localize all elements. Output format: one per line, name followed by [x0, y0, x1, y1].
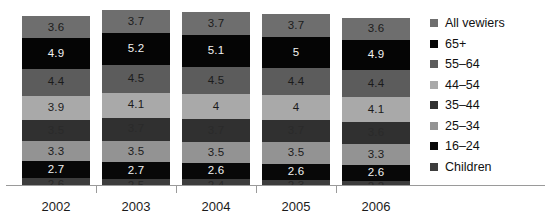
bar-value-label: 4.4 [368, 78, 385, 90]
bar-segment[interactable]: 5.1 [182, 35, 250, 66]
legend-item[interactable]: 16–24 [430, 136, 548, 157]
bar-segment[interactable]: 3.7 [262, 14, 330, 37]
bar-segment[interactable]: 4.4 [342, 70, 410, 97]
bar-value-label: 4.1 [368, 104, 385, 116]
bar-value-label: 3.7 [288, 20, 305, 32]
bar-value-label: 3.9 [48, 102, 65, 114]
bar-value-label: 2.7 [48, 164, 65, 176]
bar-value-label: 5.1 [208, 45, 225, 57]
bar-segment[interactable]: 4 [262, 95, 330, 120]
legend-label: All vewiers [445, 16, 505, 30]
bar-value-label: 4.4 [48, 76, 65, 88]
bar-value-label: 3.5 [128, 146, 145, 158]
bar-segment[interactable]: 4 [182, 94, 250, 119]
legend-label: 25–34 [445, 119, 480, 133]
bar-column-2006[interactable]: 3.64.94.44.13.63.32.62.2 [342, 18, 410, 186]
bar-segment[interactable]: 3.6 [342, 122, 410, 144]
bar-segment[interactable]: 3.5 [262, 142, 330, 164]
bar-column-2003[interactable]: 3.75.24.54.13.73.52.72.5 [102, 10, 170, 186]
x-axis-tick [96, 186, 97, 193]
bar-segment[interactable]: 3.7 [182, 119, 250, 142]
bar-segment[interactable]: 3.9 [22, 96, 90, 120]
bar-value-label: 5 [293, 47, 300, 59]
bar-column-2005[interactable]: 3.754.443.73.52.62.3 [262, 14, 330, 186]
bar-column-2004[interactable]: 3.75.14.543.73.52.62.4 [182, 12, 250, 186]
bar-segment[interactable]: 2.6 [182, 163, 250, 179]
bar-value-label: 4.5 [128, 73, 145, 85]
legend-swatch-icon [430, 101, 438, 109]
bar-value-label: 2.6 [208, 165, 225, 177]
bar-value-label: 3.6 [368, 23, 385, 35]
legend-swatch-icon [430, 81, 438, 89]
bar-value-label: 3.7 [288, 125, 305, 137]
bar-value-label: 3.5 [288, 147, 305, 159]
bar-segment[interactable]: 3.5 [182, 142, 250, 164]
bar-value-label: 3.7 [208, 18, 225, 30]
bar-segment[interactable]: 3.7 [102, 118, 170, 141]
legend-item[interactable]: 65+ [430, 34, 548, 55]
bar-segment[interactable]: 4.1 [102, 93, 170, 118]
bar-segment[interactable]: 3.3 [342, 144, 410, 164]
bar-segment[interactable]: 4.5 [182, 67, 250, 95]
bar-segment[interactable]: 3.6 [342, 18, 410, 40]
legend-label: 55–64 [445, 57, 480, 71]
bar-value-label: 2.6 [368, 167, 385, 179]
legend-item[interactable]: Children [430, 157, 548, 178]
legend-item[interactable]: 44–54 [430, 75, 548, 96]
bar-segment[interactable]: 4.4 [262, 68, 330, 95]
legend-swatch-icon [430, 122, 438, 130]
legend-label: 65+ [445, 37, 466, 51]
x-axis-label-2002: 2002 [22, 199, 90, 214]
bar-segment[interactable]: 2.7 [22, 161, 90, 178]
bar-value-label: 3.6 [368, 127, 385, 139]
bar-segment[interactable]: 3.5 [22, 120, 90, 142]
bar-value-label: 2.7 [128, 165, 145, 177]
legend-swatch-icon [430, 60, 438, 68]
bar-column-2002[interactable]: 3.64.94.43.93.53.32.72.6 [22, 16, 90, 186]
bar-segment[interactable]: 4.1 [342, 97, 410, 122]
bar-segment[interactable]: 2.6 [342, 165, 410, 181]
bar-segment[interactable]: 5 [262, 37, 330, 68]
bar-value-label: 2.6 [288, 166, 305, 178]
bar-segment[interactable]: 4.9 [22, 38, 90, 68]
bar-value-label: 5.2 [128, 43, 145, 55]
bar-value-label: 3.3 [368, 149, 385, 161]
legend-swatch-icon [430, 142, 438, 150]
bar-value-label: 3.5 [48, 125, 65, 137]
bar-segment[interactable]: 3.3 [22, 141, 90, 161]
legend-item[interactable]: 25–34 [430, 116, 548, 137]
bar-value-label: 3.7 [208, 125, 225, 137]
bar-segment[interactable]: 3.7 [262, 120, 330, 143]
bar-segment[interactable]: 3.6 [22, 16, 90, 38]
bar-value-label: 4 [293, 102, 300, 114]
bar-value-label: 4 [213, 101, 220, 113]
bar-segment[interactable]: 4.4 [22, 69, 90, 96]
x-axis-label-2004: 2004 [182, 199, 250, 214]
x-axis-tick [336, 186, 337, 193]
legend-swatch-icon [430, 19, 438, 27]
bar-value-label: 4.4 [288, 76, 305, 88]
bar-value-label: 3.6 [48, 22, 65, 34]
bar-segment[interactable]: 3.7 [102, 10, 170, 33]
bar-segment[interactable]: 3.5 [102, 141, 170, 163]
legend-item[interactable]: 55–64 [430, 54, 548, 75]
legend-swatch-icon [430, 163, 438, 171]
legend-item[interactable]: All vewiers [430, 13, 548, 34]
bar-segment[interactable]: 4.5 [102, 65, 170, 93]
legend-label: 16–24 [445, 139, 480, 153]
bar-segment[interactable]: 4.9 [342, 40, 410, 70]
bar-segment[interactable]: 2.6 [262, 164, 330, 180]
bar-segment[interactable]: 3.7 [182, 12, 250, 35]
x-axis-tick [176, 186, 177, 193]
bar-segment[interactable]: 2.7 [102, 162, 170, 179]
x-axis-label-2006: 2006 [342, 199, 410, 214]
bar-value-label: 4.5 [208, 75, 225, 87]
legend-swatch-icon [430, 40, 438, 48]
legend-label: 44–54 [445, 78, 480, 92]
legend-item[interactable]: 35–44 [430, 95, 548, 116]
stacked-bar-chart: 3.64.94.43.93.53.32.72.63.75.24.54.13.73… [0, 0, 551, 222]
x-axis-label-2003: 2003 [102, 199, 170, 214]
bar-segment[interactable]: 5.2 [102, 33, 170, 65]
bar-value-label: 4.9 [48, 48, 65, 60]
legend-label: 35–44 [445, 98, 480, 112]
